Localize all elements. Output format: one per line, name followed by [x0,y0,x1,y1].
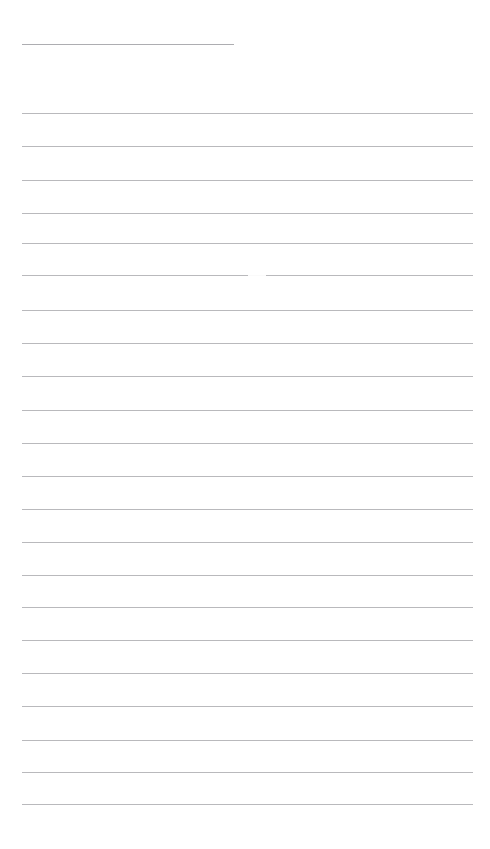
line-write-zone[interactable] [22,708,473,740]
ruled-line [22,772,473,773]
ruled-line [22,476,473,477]
ruled-line [22,113,473,114]
line-write-zone[interactable] [22,277,473,310]
line-write-zone[interactable] [22,577,473,607]
line-write-zone[interactable] [22,46,473,113]
line-write-zone[interactable] [22,245,473,275]
document-page [0,0,490,849]
line-write-zone[interactable] [22,445,473,476]
page-bottom-margin [0,806,490,849]
line-write-zone[interactable] [22,345,473,376]
line-write-zone[interactable] [22,182,473,213]
ruled-line [22,575,473,576]
line-write-zone[interactable] [22,642,473,673]
line-write-zone[interactable] [22,609,473,640]
ruled-line [22,180,473,181]
line-write-zone[interactable] [22,544,473,575]
ruled-line [22,243,473,244]
ruled-line [22,146,473,147]
line-write-zone[interactable] [22,412,473,443]
ruled-line [22,640,473,641]
ruled-line [22,343,473,344]
ruled-line [22,509,473,510]
ruled-line [22,275,473,276]
ruled-line [22,443,473,444]
ruled-line [22,542,473,543]
ruled-line [22,706,473,707]
ruled-line [22,607,473,608]
ruled-line [22,310,473,311]
line-write-zone[interactable] [22,148,473,180]
line-write-zone[interactable] [22,511,473,542]
ruled-line [22,376,473,377]
page-top-margin [0,0,490,44]
ruled-line [22,213,473,214]
line-write-zone[interactable] [22,774,473,804]
line-write-zone[interactable] [22,312,473,343]
ruled-line [22,410,473,411]
line-write-zone[interactable] [22,115,473,146]
line-write-zone[interactable] [22,478,473,509]
line-write-zone[interactable] [22,742,473,772]
line-write-zone[interactable] [22,378,473,410]
ruled-line [22,804,473,805]
line-write-zone[interactable] [22,675,473,706]
ruled-line [22,740,473,741]
line-write-zone[interactable] [22,215,473,243]
ruled-line [22,673,473,674]
